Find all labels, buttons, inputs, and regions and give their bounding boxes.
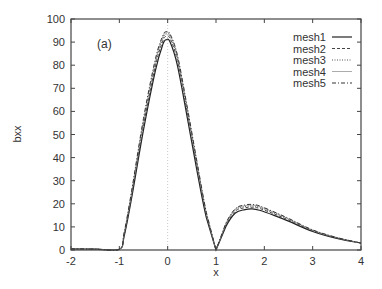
y-tick-label: 40 <box>53 152 65 164</box>
x-axis-label: x <box>213 266 219 278</box>
line-chart: 0102030405060708090100 -2-101234 (a) x b… <box>0 0 382 289</box>
y-tick-label: 50 <box>53 129 65 141</box>
y-tick-label: 80 <box>53 59 65 71</box>
y-tick-label: 30 <box>53 175 65 187</box>
x-tick-label: -2 <box>66 255 76 267</box>
legend-label: mesh4 <box>293 66 326 78</box>
y-tick-label: 10 <box>53 221 65 233</box>
y-tick-label: 0 <box>59 244 65 256</box>
x-tick-label: 4 <box>358 255 364 267</box>
legend: mesh1mesh2mesh3mesh4mesh5 <box>293 31 352 89</box>
x-tick-label: 3 <box>310 255 316 267</box>
x-tick-label: 2 <box>261 255 267 267</box>
legend-label: mesh3 <box>293 54 326 66</box>
legend-label: mesh2 <box>293 43 326 55</box>
y-axis-label: bxx <box>11 125 23 143</box>
legend-label: mesh1 <box>293 31 326 43</box>
y-tick-label: 70 <box>53 82 65 94</box>
x-tick-label: -1 <box>114 255 124 267</box>
legend-label: mesh5 <box>293 77 326 89</box>
y-tick-label: 90 <box>53 36 65 48</box>
y-tick-label: 100 <box>47 13 65 25</box>
y-tick-label: 20 <box>53 198 65 210</box>
panel-annotation: (a) <box>97 37 112 51</box>
y-tick-label: 60 <box>53 105 65 117</box>
x-tick-label: 0 <box>165 255 171 267</box>
